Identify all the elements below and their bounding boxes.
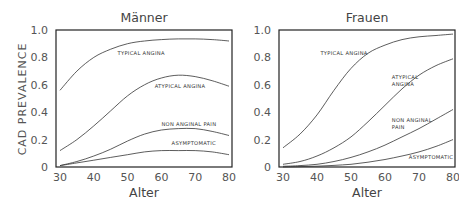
x-tick-label: 40	[310, 171, 324, 184]
y-tick-label: 0.6	[254, 79, 272, 92]
series-line-typical-angina	[283, 34, 453, 148]
y-tick-label: 0.2	[31, 134, 49, 147]
series-label: TYPICAL ANGINA	[319, 50, 367, 56]
x-tick-label: 70	[188, 171, 202, 184]
y-tick-label: 1.0	[254, 24, 272, 37]
y-tick-label: 0	[264, 161, 271, 174]
y-tick-label: 0.8	[31, 51, 49, 64]
series-label: ASYMPTOMATIC	[409, 154, 453, 160]
series-label: NON ANGINAL PAIN	[161, 121, 216, 127]
x-axis-label: Alter	[129, 185, 160, 200]
series-label: ASYMPTOMATIC	[172, 140, 216, 146]
figure: CAD PREVALENCE Männer00.20.40.60.81.0304…	[0, 0, 459, 212]
series-line-non-anginal-pain	[60, 128, 229, 165]
x-tick-label: 60	[378, 171, 392, 184]
panel-frauen: Frauen00.20.40.60.81.0304050607080AlterT…	[254, 10, 459, 200]
series-label: NON ANGINAL	[392, 117, 432, 123]
y-tick-label: 0.2	[254, 134, 272, 147]
y-tick-label: 0.8	[254, 51, 272, 64]
x-tick-label: 80	[446, 171, 459, 184]
y-tick-label: 0.4	[254, 106, 272, 119]
y-tick-label: 0	[41, 161, 48, 174]
x-tick-label: 70	[412, 171, 426, 184]
x-axis-label: Alter	[352, 185, 383, 200]
x-tick-label: 50	[344, 171, 358, 184]
series-label: PAIN	[392, 124, 405, 130]
chart-title: Frauen	[346, 10, 389, 25]
series-label: ANGINA	[392, 81, 414, 87]
chart-title: Männer	[120, 10, 168, 25]
x-tick-label: 40	[87, 171, 101, 184]
x-tick-label: 50	[121, 171, 135, 184]
x-tick-label: 30	[53, 171, 67, 184]
panel-maenner: Männer00.20.40.60.81.0304050607080AlterT…	[31, 10, 237, 200]
y-tick-label: 0.6	[31, 79, 49, 92]
series-label: ATYPICAL ANGINA	[155, 83, 206, 89]
series-line-asymptomatic	[60, 150, 229, 165]
series-line-atypical-angina	[283, 59, 453, 165]
y-tick-label: 0.4	[31, 106, 49, 119]
x-tick-label: 60	[154, 171, 168, 184]
series-label: TYPICAL ANGINA	[116, 50, 164, 56]
y-tick-label: 1.0	[31, 24, 49, 37]
y-axis-label: CAD PREVALENCE	[16, 43, 29, 156]
x-tick-label: 30	[276, 171, 290, 184]
x-tick-label: 80	[222, 171, 236, 184]
series-label: ATYPICAL	[392, 74, 419, 80]
